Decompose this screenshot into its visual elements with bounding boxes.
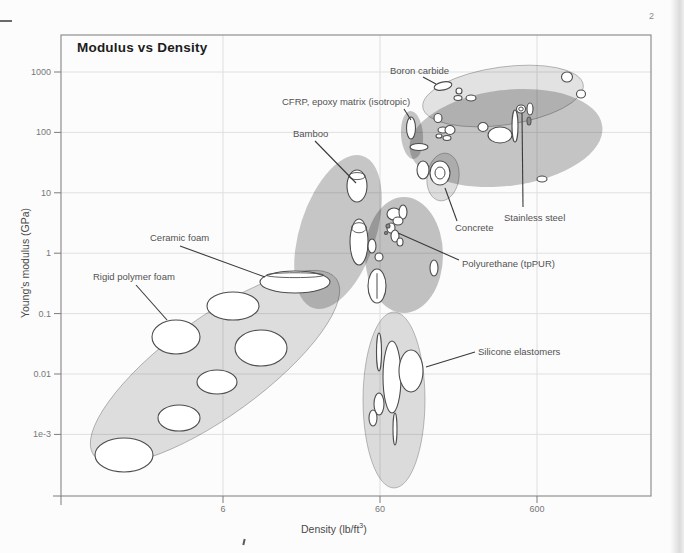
y-tick-label: 0.01 [33, 369, 51, 379]
material-bubble-dark [385, 232, 388, 235]
label-line-rigid-polymer-foam [136, 285, 167, 320]
y-tick-label: 1 [46, 248, 51, 258]
ashby-chart-modulus-vs-density: 10001001010.10.011e-3660600Boron carbide… [0, 0, 684, 553]
material-bubble [347, 170, 367, 202]
label-stainless-steel: Stainless steel [504, 212, 565, 223]
material-bubble [417, 161, 429, 179]
material-bubble [456, 88, 462, 94]
chart-title: Modulus vs Density [77, 40, 207, 55]
material-bubble [430, 161, 450, 185]
material-bubble [488, 127, 512, 143]
page-edge-shadow [670, 0, 684, 553]
material-bubble [577, 90, 586, 98]
material-bubble [369, 410, 377, 426]
material-bubble [466, 95, 476, 101]
material-bubble [410, 144, 428, 151]
material-bubble [235, 330, 287, 366]
material-bubble [158, 405, 200, 431]
material-bubble [95, 438, 153, 472]
material-bubble [207, 292, 259, 320]
material-bubble [434, 114, 442, 123]
material-bubble [443, 136, 451, 141]
material-bubble [478, 123, 488, 132]
material-bubble [445, 126, 455, 135]
y-axis-title: Young's modulus (GPa) [19, 183, 35, 343]
x-axis-title-text: Density (lb/ft [301, 523, 359, 535]
label-polyurethane: Polyurethane (tpPUR) [462, 258, 555, 269]
y-tick-label: 10 [41, 188, 51, 198]
material-bubble [393, 217, 403, 225]
material-bubble [517, 105, 526, 113]
material-bubble [152, 320, 200, 354]
label-ceramic-foam: Ceramic foam [150, 232, 209, 243]
material-bubble [512, 110, 518, 142]
scanned-page: 2 10001001010.10.011e-3660600Boron carbi… [0, 0, 684, 553]
material-bubble-dark [527, 117, 531, 125]
label-concrete: Concrete [455, 222, 494, 233]
x-tick-label: 6 [220, 504, 225, 514]
label-bamboo: Bamboo [293, 128, 328, 139]
material-bubble [368, 239, 376, 253]
material-bubble [377, 333, 382, 371]
x-axis-title: Density (lb/ft3) [301, 522, 367, 535]
label-rigid-polymer-foam: Rigid polymer foam [93, 271, 175, 282]
material-bubble [350, 219, 368, 265]
material-bubble-dark [386, 224, 390, 228]
material-bubble [430, 260, 438, 276]
x-tick-label: 60 [375, 504, 385, 514]
material-bubble [393, 413, 397, 445]
y-tick-label: 1e-3 [33, 429, 51, 439]
label-silicone-elastomers: Silicone elastomers [478, 346, 561, 357]
material-bubble [527, 103, 533, 115]
material-bubble [407, 117, 416, 139]
material-bubble [197, 370, 237, 394]
y-tick-label: 0.1 [38, 309, 51, 319]
label-cfrp: CFRP, epoxy matrix (isotropic) [282, 96, 410, 107]
label-line-boron-carbide [423, 77, 436, 84]
x-tick-label: 600 [529, 504, 544, 514]
material-bubble [383, 341, 401, 413]
y-tick-label: 100 [36, 127, 51, 137]
label-line-silicone-elastomers [426, 352, 475, 367]
material-bubble [436, 134, 442, 138]
label-boron-carbide: Boron carbide [390, 65, 449, 76]
material-bubble [399, 350, 423, 392]
y-tick-label: 1000 [31, 67, 51, 77]
material-bubble [397, 238, 403, 246]
material-bubble [537, 176, 547, 182]
x-axis-title-suffix: ) [363, 523, 367, 535]
material-bubble [562, 72, 573, 82]
material-bubble [454, 96, 462, 101]
material-bubble [375, 253, 383, 261]
